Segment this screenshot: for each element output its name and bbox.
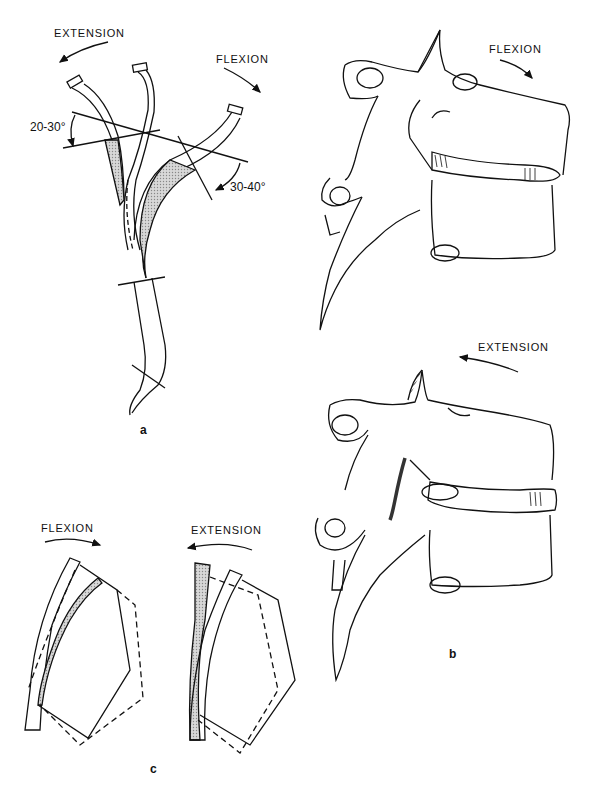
panel-c-schematic: [25, 539, 295, 753]
panel-b-extension-label: EXTENSION: [478, 341, 549, 353]
panel-a-flexion-angle: 30-40°: [230, 180, 266, 194]
flexion-arrow-icon: [45, 539, 100, 545]
panel-a-caption: a: [140, 423, 147, 437]
panel-c-extension-label: EXTENSION: [191, 524, 262, 536]
extension-arrow-icon: [460, 357, 518, 372]
diagram-canvas: [0, 0, 595, 803]
flexion-arrow-icon: [500, 60, 532, 78]
panel-a-neck-diagram: [60, 42, 260, 415]
panel-a-extension-label: EXTENSION: [54, 27, 125, 39]
panel-b-vertebrae-extension: [315, 357, 556, 680]
panel-a-flexion-label: FLEXION: [216, 53, 269, 65]
panel-b-caption: b: [449, 647, 456, 661]
panel-a-extension-angle: 20-30°: [30, 120, 66, 134]
panel-b-vertebrae-flexion: [320, 30, 569, 330]
extension-arrow-icon: [188, 544, 252, 550]
extension-arrow-icon: [60, 42, 108, 62]
flexion-arrow-icon: [224, 68, 260, 92]
panel-c-caption: c: [150, 762, 157, 776]
panel-c-flexion-label: FLEXION: [41, 522, 94, 534]
panel-b-flexion-label: FLEXION: [489, 43, 542, 55]
